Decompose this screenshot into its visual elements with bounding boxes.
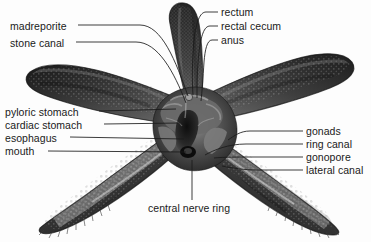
label-rectum: rectum — [221, 7, 253, 18]
label-gonads: gonads — [306, 126, 341, 137]
label-lateral-canal: lateral canal — [306, 165, 363, 176]
label-ring-canal: ring canal — [306, 139, 352, 150]
label-esophagus: esophagus — [5, 133, 57, 144]
label-madreporite: madreporite — [10, 21, 67, 32]
label-cardiac-stomach: cardiac stomach — [5, 120, 82, 131]
label-stone-canal: stone canal — [10, 38, 64, 49]
label-rectal-cecum: rectal cecum — [221, 21, 281, 32]
figure-container: madreporite stone canal pyloric stomach … — [0, 0, 371, 242]
label-gonopore: gonopore — [306, 152, 351, 163]
label-mouth: mouth — [5, 146, 34, 157]
label-anus: anus — [221, 35, 244, 46]
label-pyloric-stomach: pyloric stomach — [5, 107, 79, 118]
label-central-nerve-ring: central nerve ring — [148, 203, 230, 214]
